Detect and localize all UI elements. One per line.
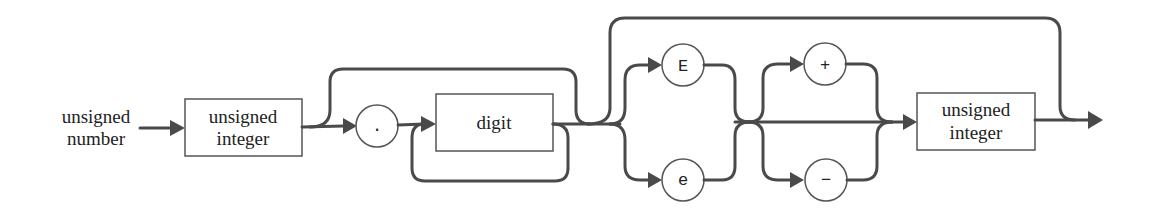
arrow-to-dot (343, 118, 357, 134)
nonterminal-digit: digit (436, 94, 553, 151)
branch-plus (748, 64, 792, 122)
plus-to-merge (846, 64, 892, 122)
svg-text:integer: integer (217, 128, 270, 149)
entry-arrow (140, 120, 185, 136)
arrow-to-E (648, 57, 662, 73)
svg-text:.: . (372, 117, 382, 136)
start-label-line1: unsigned (62, 106, 131, 127)
svg-text:E: E (678, 57, 688, 76)
minus-to-merge (847, 122, 892, 180)
arrow-to-e (648, 172, 662, 188)
exit-arrow (1088, 111, 1103, 129)
e-to-merge (704, 122, 750, 180)
E-to-merge (704, 65, 750, 122)
svg-text:digit: digit (477, 112, 513, 133)
terminal-plus: + (804, 43, 846, 85)
terminal-E: E (662, 44, 704, 86)
branch-e (610, 124, 650, 180)
branch-minus (748, 122, 792, 180)
svg-text:unsigned: unsigned (942, 99, 1011, 120)
terminal-minus: − (805, 159, 847, 201)
svg-text:integer: integer (950, 122, 1003, 143)
svg-text:e: e (678, 171, 688, 190)
syntax-diagram: unsigned number unsigned integer . digit… (0, 0, 1158, 212)
arrow-to-plus (790, 56, 804, 72)
svg-text:+: + (820, 56, 830, 75)
start-label-line2: number (67, 128, 126, 149)
arrow-to-minus (790, 172, 804, 188)
nonterminal-unsigned-integer-1: unsigned integer (185, 99, 302, 156)
terminal-e: e (662, 159, 704, 201)
branch-E (610, 65, 650, 124)
svg-text:unsigned: unsigned (209, 106, 278, 127)
path-to-dot (302, 126, 344, 127)
arrow-to-unsigned-integer-2 (903, 114, 917, 130)
svg-text:−: − (821, 171, 831, 190)
nonterminal-unsigned-integer-2: unsigned integer (917, 93, 1035, 150)
terminal-dot: . (356, 105, 398, 147)
